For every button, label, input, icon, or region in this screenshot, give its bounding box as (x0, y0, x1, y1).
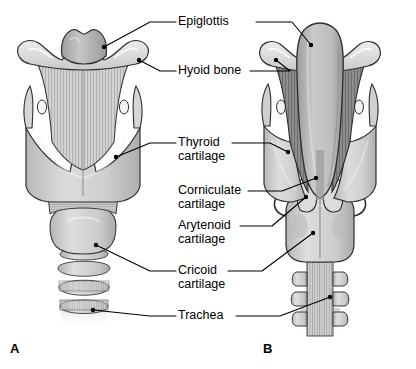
leader-hyoid-a-dot (137, 58, 141, 62)
label-arytenoid: Arytenoidcartilage (178, 219, 231, 246)
superior-horn-b-left (262, 84, 271, 126)
label-thyroid-line1: Thyroid (178, 136, 225, 150)
label-hyoid-bone: Hyoid bone (178, 64, 241, 78)
trachea-a (58, 249, 110, 314)
triticeal-cartilage-a-left (37, 100, 46, 114)
leader-cricoid-b-dot (311, 231, 315, 235)
leader-epiglottis-a-dot (102, 45, 106, 49)
label-cricoid-line2: cartilage (178, 278, 225, 292)
label-hyoid-bone-line1: Hyoid bone (178, 64, 241, 78)
label-epiglottis-line1: Epiglottis (178, 15, 229, 29)
epiglottis-a (61, 30, 106, 64)
leader-hyoid-a (139, 60, 176, 71)
interarytenoid-groove-b (316, 150, 324, 200)
label-cricoid-line1: Cricoid (178, 264, 225, 278)
leader-epiglottis-b-dot (309, 43, 313, 47)
label-corniculate-line2: cartilage (178, 198, 241, 212)
leader-trachea-b-dot (328, 295, 332, 299)
superior-horn-b-right (369, 84, 378, 126)
leader-trachea-a-dot (91, 308, 95, 312)
leader-thyroid-b-dot (286, 150, 290, 154)
leader-arytenoid-dot (304, 195, 308, 199)
leader-cricoid-a-dot (94, 243, 98, 247)
label-cricoid: Cricoidcartilage (178, 264, 225, 291)
label-corniculate-line1: Corniculate (178, 184, 241, 198)
triticeal-cartilage-b-left (277, 100, 286, 114)
label-arytenoid-line2: cartilage (178, 233, 231, 247)
label-corniculate: Corniculatecartilage (178, 184, 241, 211)
label-trachea-line1: Trachea (178, 309, 223, 323)
label-trachea: Trachea (178, 309, 223, 323)
label-epiglottis: Epiglottis (178, 15, 229, 29)
label-arytenoid-line1: Arytenoid (178, 219, 231, 233)
cricoid-cartilage-a (50, 205, 116, 254)
superior-horn-a-right (133, 86, 142, 128)
triticeal-cartilage-b-right (355, 100, 364, 114)
figure-b-posterior-larynx (260, 23, 381, 336)
panel-id-a: A (10, 341, 19, 356)
triticeal-cartilage-a-right (119, 100, 128, 114)
leader-hyoid-b-dot (274, 58, 278, 62)
leader-thyroid-a-dot (114, 155, 118, 159)
label-thyroid: Thyroidcartilage (178, 136, 225, 163)
panel-id-b: B (263, 341, 272, 356)
figure-a-anterior-larynx (18, 30, 149, 330)
label-thyroid-line2: cartilage (178, 150, 225, 164)
superior-horn-a-left (24, 86, 33, 128)
leader-corniculate-dot (314, 176, 318, 180)
